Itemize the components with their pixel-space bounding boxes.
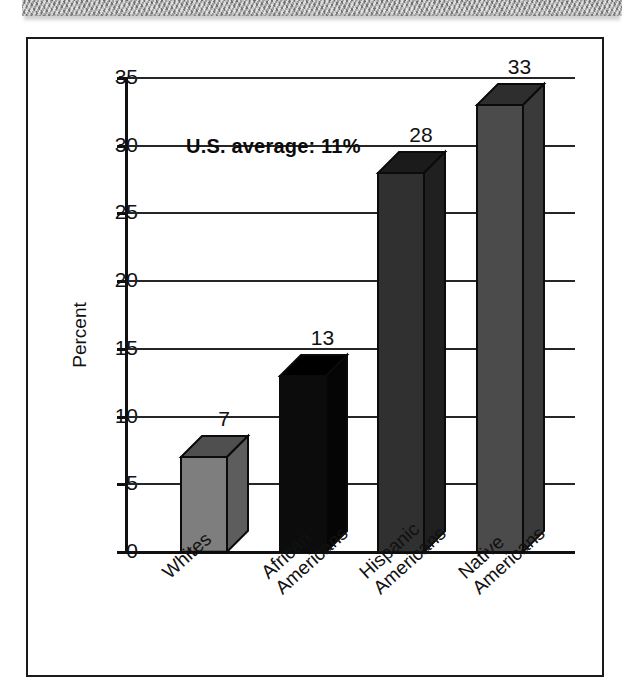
y-axis-tick bbox=[117, 483, 126, 486]
y-axis-tick bbox=[117, 551, 126, 554]
bar-3d-shape bbox=[377, 151, 446, 553]
bar-side-face bbox=[227, 436, 248, 552]
bar-front-face bbox=[477, 105, 523, 552]
y-axis-tick bbox=[117, 212, 126, 215]
bar-3d-shape bbox=[476, 83, 545, 553]
scanned-page-edge-shadow bbox=[24, 15, 620, 22]
bar-value-label: 13 bbox=[288, 327, 358, 348]
y-axis-title: Percent bbox=[69, 275, 91, 395]
bar-side-face bbox=[424, 152, 445, 552]
y-axis-tick bbox=[117, 280, 126, 283]
bar-side-face bbox=[523, 84, 544, 552]
bar-value-label: 28 bbox=[386, 124, 456, 145]
bar-3d-shape bbox=[180, 435, 249, 553]
scanned-page-edge-texture bbox=[22, 0, 622, 16]
chart-annotation: U.S. average: 11% bbox=[186, 135, 361, 158]
bar-value-label: 7 bbox=[189, 408, 259, 429]
y-axis-tick bbox=[117, 77, 126, 80]
bar-2 bbox=[377, 151, 444, 551]
bar-0 bbox=[180, 435, 247, 551]
figure-frame: 05101520253035 Percent U.S. average: 11%… bbox=[26, 37, 604, 677]
bar-front-face bbox=[378, 173, 424, 552]
bar-3 bbox=[476, 83, 543, 551]
y-axis-tick bbox=[117, 348, 126, 351]
y-axis-tick bbox=[117, 145, 126, 148]
bar-value-label: 33 bbox=[485, 56, 555, 77]
y-axis-tick bbox=[117, 416, 126, 419]
